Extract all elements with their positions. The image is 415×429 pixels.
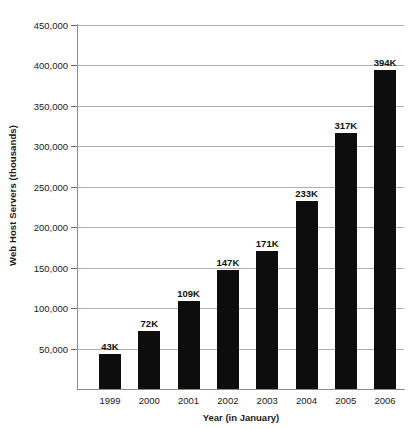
gridline (77, 25, 404, 26)
bar[interactable] (296, 201, 318, 389)
y-axis-tick (71, 268, 77, 269)
y-axis-tick-label: 400,000 (34, 60, 68, 71)
bar[interactable] (256, 251, 278, 389)
y-axis-tick (71, 146, 77, 147)
bar-value-label: 233K (295, 188, 318, 199)
y-axis-tick-label: 50,000 (39, 343, 68, 354)
y-axis-tick-labels: 450,000400,000350,000300,000250,000200,0… (0, 0, 68, 429)
bar[interactable] (217, 270, 239, 389)
x-axis-tick-label: 2005 (335, 395, 356, 406)
y-axis-tick-label: 100,000 (34, 303, 68, 314)
x-axis-tick-label: 1999 (99, 395, 120, 406)
x-axis-tick-label: 2000 (139, 395, 160, 406)
y-axis-tick-label: 150,000 (34, 262, 68, 273)
bar[interactable] (138, 331, 160, 389)
y-axis-tick-label: 450,000 (34, 20, 68, 31)
y-axis-tick-label: 300,000 (34, 141, 68, 152)
x-axis-tick-label: 2003 (257, 395, 278, 406)
bar-chart-figure: Web Host Servers (thousands) 450,000400,… (0, 0, 415, 429)
x-axis-tick-label: 2004 (296, 395, 317, 406)
plot-area: 43K72K109K147K171K233K317K394K (77, 25, 404, 389)
x-axis-tick-label: 2002 (217, 395, 238, 406)
bar-value-label: 147K (217, 257, 240, 268)
bar-value-label: 109K (177, 288, 200, 299)
y-axis-tick (71, 187, 77, 188)
y-axis-tick (71, 25, 77, 26)
bar[interactable] (374, 70, 396, 389)
bar-value-label: 72K (141, 318, 158, 329)
bar[interactable] (178, 301, 200, 389)
bar-value-label: 171K (256, 238, 279, 249)
x-axis-tick-label: 2006 (375, 395, 396, 406)
y-axis-tick-label: 350,000 (34, 100, 68, 111)
bar[interactable] (335, 133, 357, 389)
x-axis-spine (77, 389, 405, 390)
gridline (77, 65, 404, 66)
x-axis-title: Year (in January) (77, 412, 405, 423)
y-axis-tick (71, 65, 77, 66)
y-axis-tick-label: 200,000 (34, 222, 68, 233)
y-axis-tick-label: 250,000 (34, 181, 68, 192)
y-axis-tick (71, 308, 77, 309)
gridline (77, 106, 404, 107)
bar-value-label: 317K (334, 120, 357, 131)
bar-value-label: 394K (374, 57, 397, 68)
bar-value-label: 43K (101, 341, 118, 352)
bar[interactable] (99, 354, 121, 389)
y-axis-tick (71, 106, 77, 107)
y-axis-tick (71, 349, 77, 350)
y-axis-tick (71, 227, 77, 228)
x-axis-tick-label: 2001 (178, 395, 199, 406)
